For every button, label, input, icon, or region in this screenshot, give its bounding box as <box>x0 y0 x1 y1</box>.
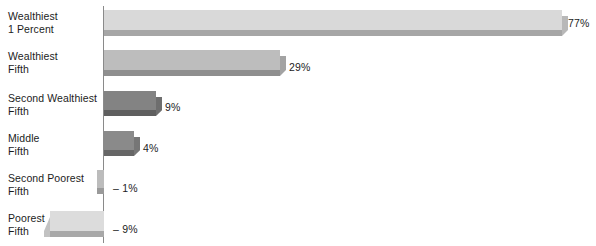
zero-axis-line <box>103 6 104 243</box>
bar-second-wealthiest-fifth[interactable] <box>104 91 156 116</box>
bar-shadow-band <box>104 110 156 116</box>
bar-end-cap <box>156 97 162 116</box>
category-label-line2: Fifth <box>8 145 40 158</box>
category-label-line2: Fifth <box>8 105 97 118</box>
bar-end-cap <box>44 217 50 237</box>
bar-second-poorest-fifth[interactable] <box>97 170 104 194</box>
bar-shadow-band <box>104 30 562 36</box>
category-label-line1: Second Wealthiest <box>8 92 97 104</box>
category-label: Second Wealthiest Fifth <box>8 92 97 117</box>
value-label: 29% <box>289 61 311 73</box>
bar-end-cap <box>134 137 140 156</box>
category-label: Wealthiest 1 Percent <box>8 10 58 35</box>
category-label: Poorest Fifth <box>8 212 45 237</box>
category-label-line2: Fifth <box>8 63 58 76</box>
category-label: Second Poorest Fifth <box>8 172 84 197</box>
bar-wealthiest-1-percent[interactable] <box>104 10 562 36</box>
bar-shadow-band <box>97 188 104 194</box>
category-label: Wealthiest Fifth <box>8 50 58 75</box>
value-label: 9% <box>165 101 181 113</box>
income-share-bar-chart: Wealthiest 1 Percent 77% Wealthiest Fift… <box>0 0 596 246</box>
category-label: Middle Fifth <box>8 132 40 157</box>
bar-shadow-band <box>104 150 134 156</box>
value-label: – 9% <box>113 223 138 235</box>
value-label: 4% <box>143 142 159 154</box>
bar-end-cap <box>280 56 286 76</box>
bar-shadow-band <box>50 231 104 237</box>
category-label-line2: Fifth <box>8 185 84 198</box>
value-label: 77% <box>568 17 590 29</box>
value-label: – 1% <box>113 182 138 194</box>
bar-shadow-band <box>104 70 280 76</box>
category-label-line1: Second Poorest <box>8 172 84 184</box>
bar-middle-fifth[interactable] <box>104 131 134 156</box>
category-label-line1: Wealthiest <box>8 10 58 22</box>
category-label-line1: Poorest <box>8 212 45 224</box>
category-label-line2: 1 Percent <box>8 23 58 36</box>
bar-wealthiest-fifth[interactable] <box>104 50 280 76</box>
category-label-line2: Fifth <box>8 225 45 238</box>
bar-poorest-fifth[interactable] <box>50 211 104 237</box>
category-label-line1: Middle <box>8 132 40 144</box>
category-label-line1: Wealthiest <box>8 50 58 62</box>
